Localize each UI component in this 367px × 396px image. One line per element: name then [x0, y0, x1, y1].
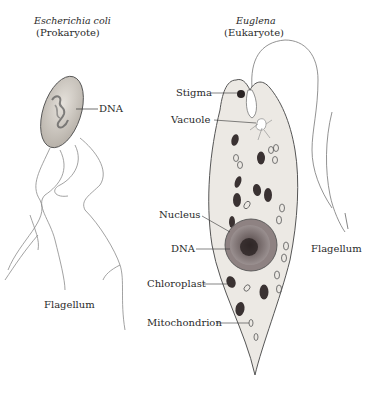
euglena-title: Euglena — [236, 15, 276, 26]
euglena-mitochondrion-label: Mitochondrion — [147, 317, 222, 328]
diagram-artwork — [0, 0, 367, 396]
euglena-vacuole-label: Vacuole — [171, 114, 210, 125]
euglena-type: (Eukaryote) — [224, 27, 284, 38]
euglena-nucleus-label: Nucleus — [159, 209, 200, 220]
ecoli-flagellum-label: Flagellum — [44, 299, 95, 310]
ecoli-title: Escherichia coli — [34, 15, 111, 26]
euglena-chloroplast-label: Chloroplast — [147, 278, 206, 289]
ecoli-dna-label: DNA — [99, 103, 123, 114]
ecoli-type: (Prokaryote) — [36, 27, 100, 38]
euglena-flagellum-label: Flagellum — [311, 243, 362, 254]
ecoli-cell — [32, 71, 91, 153]
euglena-dna-label: DNA — [171, 243, 195, 254]
euglena-stigma-label: Stigma — [176, 87, 212, 98]
